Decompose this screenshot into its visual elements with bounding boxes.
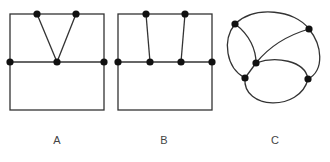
graph-c-edge xyxy=(235,24,256,63)
graph-b xyxy=(114,10,215,110)
graph-a-node xyxy=(72,10,79,17)
graph-a-label: A xyxy=(53,134,61,146)
graph-a-edge-left xyxy=(37,14,57,62)
graph-c-edge xyxy=(235,12,309,29)
graph-a xyxy=(6,10,107,110)
graph-b-node xyxy=(177,58,184,65)
graph-diagram: A B C xyxy=(0,0,330,162)
graph-b-node xyxy=(181,10,188,17)
graph-c-node xyxy=(304,75,311,82)
graph-a-node xyxy=(100,58,107,65)
graph-a-node xyxy=(33,10,40,17)
graph-c xyxy=(227,12,319,103)
graph-c-edge xyxy=(256,60,308,79)
graph-c-node xyxy=(241,74,248,81)
graph-c-edge xyxy=(245,78,308,103)
graph-b-label: B xyxy=(160,134,167,146)
graph-b-edge-right xyxy=(181,14,185,62)
graph-c-node xyxy=(231,20,238,27)
graph-a-node xyxy=(6,58,13,65)
graph-c-node xyxy=(305,25,312,32)
graph-b-edge-left xyxy=(146,14,150,62)
graph-a-node xyxy=(53,58,60,65)
graph-b-node xyxy=(146,58,153,65)
graph-b-node xyxy=(208,58,215,65)
graph-a-edge-right xyxy=(57,14,76,62)
graph-b-node xyxy=(114,58,121,65)
graph-c-node xyxy=(252,59,259,66)
graph-c-edge xyxy=(256,29,309,63)
graph-c-label: C xyxy=(271,134,279,146)
graph-c-edge xyxy=(308,29,320,79)
graph-c-edge xyxy=(227,24,245,78)
graph-b-node xyxy=(142,10,149,17)
